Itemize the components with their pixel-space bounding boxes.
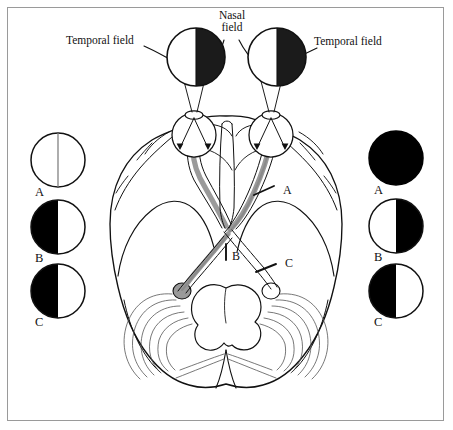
right-legend-label-A: A	[374, 184, 383, 197]
left-legend-label-C: C	[35, 316, 43, 329]
temporal-field-label-right: Temporal field	[314, 36, 382, 48]
right-legend-circle-A	[369, 131, 423, 185]
right-legend-circles	[0, 0, 453, 430]
lesion-label-A: A	[283, 184, 292, 196]
right-legend-label-C: C	[374, 316, 382, 329]
right-legend-label-B: B	[374, 251, 382, 264]
temporal-field-label-left: Temporal field	[66, 35, 134, 47]
lesion-label-B: B	[232, 250, 240, 262]
nasal-field-label: Nasal field	[202, 10, 262, 33]
lesion-label-C: C	[285, 257, 293, 269]
left-legend-label-A: A	[35, 186, 44, 199]
left-legend-label-B: B	[35, 252, 43, 265]
right-legend-circle-C	[369, 264, 423, 318]
right-legend-circle-B	[369, 199, 423, 253]
figure-canvas: Temporal field Nasal field Temporal fiel…	[0, 0, 453, 430]
